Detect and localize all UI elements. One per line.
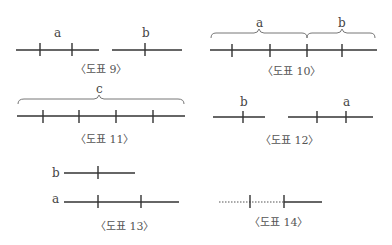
brace-c xyxy=(18,95,184,104)
caption-figure-11: 〈도표 11〉 xyxy=(75,133,135,146)
label-c: c xyxy=(96,82,103,96)
caption-figure-12: 〈도표 12〉 xyxy=(260,134,320,147)
figure-13: b a 〈도표 13〉 xyxy=(52,166,179,233)
brace-a xyxy=(211,29,307,38)
brace-b xyxy=(307,29,375,38)
figure-14: 〈도표 14〉 xyxy=(219,195,322,229)
label-b: b xyxy=(142,26,150,40)
caption-figure-13: 〈도표 13〉 xyxy=(95,220,155,233)
label-b: b xyxy=(240,95,248,109)
figure-10: a b 〈도표 10〉 xyxy=(210,16,377,78)
caption-figure-9: 〈도표 9〉 xyxy=(75,63,128,76)
figure-11: c 〈도표 11〉 xyxy=(17,82,185,146)
diagram-canvas: a b 〈도표 9〉 a b 〈도표 10〉 c 〈도표 11〉 b xyxy=(0,0,392,245)
figure-9: a b 〈도표 9〉 xyxy=(16,26,182,76)
label-b: b xyxy=(52,166,60,180)
caption-figure-14: 〈도표 14〉 xyxy=(249,216,309,229)
label-a: a xyxy=(54,26,61,40)
label-a: a xyxy=(52,192,59,206)
label-a: a xyxy=(343,95,350,109)
figure-12: b a 〈도표 12〉 xyxy=(213,95,373,147)
label-a: a xyxy=(256,16,263,30)
label-b: b xyxy=(338,16,346,30)
caption-figure-10: 〈도표 10〉 xyxy=(262,65,322,78)
